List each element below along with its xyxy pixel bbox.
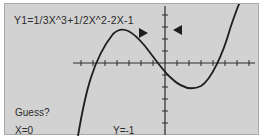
- left-pointing-marker-icon: [173, 25, 182, 35]
- equation-label: Y1=1/3X^3+1/2X^2-2X-1: [14, 14, 134, 26]
- calculator-screen: Y1=1/3X^3+1/2X^2-2X-1 Guess? X=0 Y=-1: [4, 3, 259, 135]
- right-pointing-marker-icon: [139, 28, 148, 38]
- cursor-x-value: X=0: [15, 125, 33, 136]
- cursor-y-value: Y=-1: [113, 125, 134, 136]
- guess-prompt: Guess?: [15, 107, 49, 118]
